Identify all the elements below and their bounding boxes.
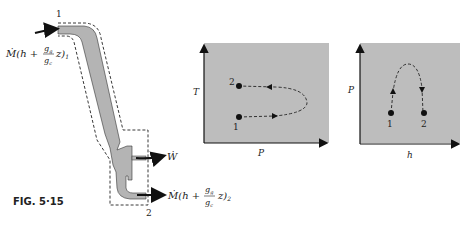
work-rate-label: Ẇ — [167, 151, 178, 162]
ph-y-label: P — [347, 85, 355, 95]
outlet-energy-expression: Ṁ(h + gg gc z)2 — [167, 185, 231, 208]
turbine-device: 1 2 Ṁ(h + gg gc z)1 Ẇ Ṁ(h + gg gc z)2 FI… — [5, 9, 231, 218]
svg-text:gg: gg — [205, 185, 213, 196]
ph-state-1-label: 1 — [387, 119, 393, 129]
svg-text:Ṁ(h +: Ṁ(h + — [167, 190, 200, 201]
ph-x-label: h — [407, 150, 413, 160]
svg-text:Ṁ(h +: Ṁ(h + — [5, 48, 38, 59]
figure-caption: FIG. 5·15 — [13, 196, 64, 207]
inlet-state-label: 1 — [56, 9, 62, 19]
inlet-energy-expression: Ṁ(h + gg gc z)1 — [5, 44, 69, 66]
tp-state-1-label: 1 — [233, 122, 239, 132]
tp-x-label: P — [257, 148, 265, 158]
tp-y-label: T — [193, 87, 200, 97]
tp-diagram: T P 1 2 — [193, 43, 329, 158]
ph-state-2-label: 2 — [421, 119, 427, 129]
tp-state-1-point — [236, 114, 242, 120]
svg-text:z)1: z)1 — [55, 48, 69, 60]
figure-canvas: 1 2 Ṁ(h + gg gc z)1 Ẇ Ṁ(h + gg gc z)2 FI… — [0, 0, 473, 227]
ph-state-2-point — [421, 110, 427, 116]
svg-text:gc: gc — [44, 56, 52, 66]
svg-text:z)2: z)2 — [217, 190, 231, 202]
ph-plot-area — [360, 43, 460, 143]
svg-text:gg: gg — [44, 44, 52, 55]
ph-diagram: P h 1 2 — [347, 43, 460, 160]
inlet-arrow — [35, 29, 56, 33]
outlet-state-label: 2 — [146, 208, 152, 218]
ph-state-1-point — [388, 110, 394, 116]
svg-text:gc: gc — [205, 198, 213, 208]
tp-plot-area — [204, 43, 329, 143]
pipe-body — [58, 26, 146, 199]
tp-state-2-point — [236, 83, 242, 89]
tp-state-2-label: 2 — [229, 77, 235, 87]
